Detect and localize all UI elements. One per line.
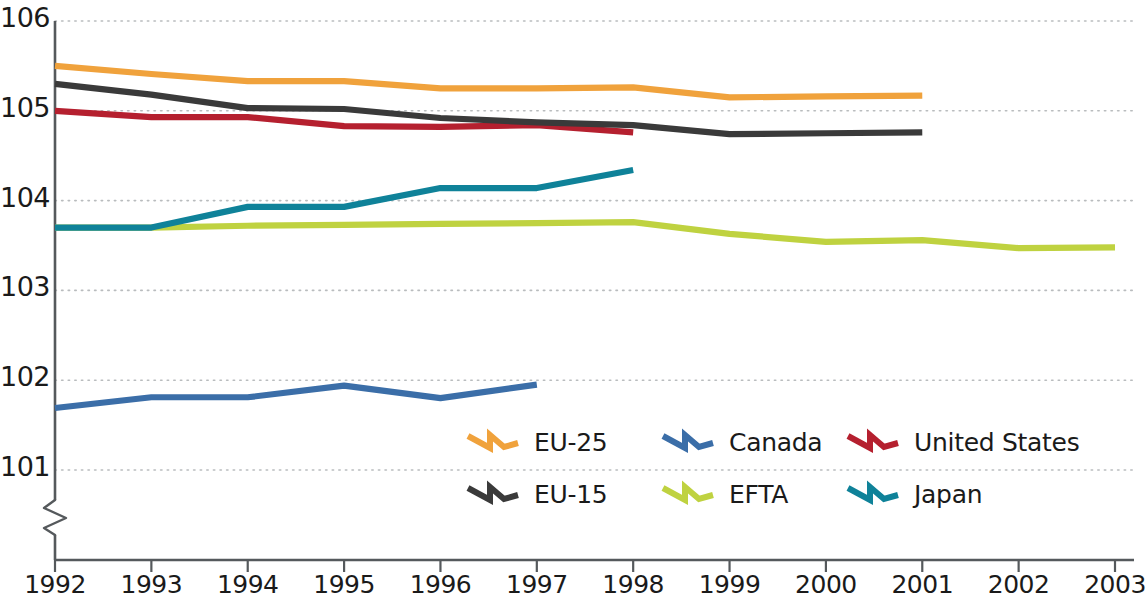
legend-swatch-icon bbox=[846, 480, 900, 508]
legend-label: EFTA bbox=[729, 480, 788, 509]
legend-swatch-icon bbox=[661, 480, 715, 508]
series-line-eu-25 bbox=[55, 66, 922, 97]
y-tick-label: 103 bbox=[0, 271, 46, 302]
x-tick-label: 1993 bbox=[106, 570, 196, 599]
series-line-japan bbox=[55, 170, 633, 227]
legend-item: Canada bbox=[661, 428, 846, 457]
y-tick-label: 106 bbox=[0, 2, 46, 33]
x-tick-label: 1998 bbox=[588, 570, 678, 599]
line-chart: 106105104103102101 199219931994199519961… bbox=[0, 0, 1146, 605]
legend-swatch-icon bbox=[661, 428, 715, 456]
legend-item: EU-25 bbox=[466, 428, 661, 457]
series-line-canada bbox=[55, 385, 537, 408]
x-tick-label: 2002 bbox=[974, 570, 1064, 599]
legend-label: EU-15 bbox=[534, 480, 607, 509]
legend-swatch-icon bbox=[466, 480, 520, 508]
x-tick-label: 1997 bbox=[492, 570, 582, 599]
x-tick-label: 2000 bbox=[781, 570, 871, 599]
legend-item: Japan bbox=[846, 480, 1112, 509]
x-tick-label: 1999 bbox=[685, 570, 775, 599]
legend-item: EU-15 bbox=[466, 480, 661, 509]
y-tick-label: 102 bbox=[0, 361, 46, 392]
legend-item: United States bbox=[846, 428, 1112, 457]
legend-swatch-icon bbox=[846, 428, 900, 456]
data-series bbox=[55, 66, 1115, 408]
legend-label: United States bbox=[914, 428, 1079, 457]
x-tick-label: 1996 bbox=[395, 570, 485, 599]
legend-item: EFTA bbox=[661, 480, 846, 509]
series-line-efta bbox=[55, 222, 1115, 248]
y-tick-label: 105 bbox=[0, 92, 46, 123]
y-tick-label: 104 bbox=[0, 182, 46, 213]
legend-label: EU-25 bbox=[534, 428, 607, 457]
legend-label: Japan bbox=[914, 480, 982, 509]
x-tick-label: 1994 bbox=[203, 570, 293, 599]
x-tick-label: 2003 bbox=[1070, 570, 1146, 599]
y-tick-label: 101 bbox=[0, 451, 46, 482]
x-tick-label: 1995 bbox=[299, 570, 389, 599]
legend-swatch-icon bbox=[466, 428, 520, 456]
x-tick-label: 2001 bbox=[877, 570, 967, 599]
x-tick-label: 1992 bbox=[10, 570, 100, 599]
chart-legend: EU-25CanadaUnited StatesEU-15EFTAJapan bbox=[466, 416, 1112, 520]
legend-label: Canada bbox=[729, 428, 822, 457]
